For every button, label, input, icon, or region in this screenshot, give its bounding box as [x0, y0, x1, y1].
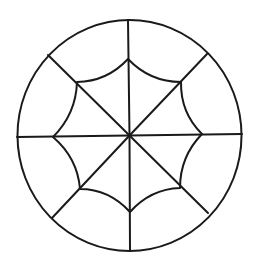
- center-point: [128, 134, 132, 138]
- web-diagram: [0, 0, 258, 265]
- spoke-bottom: [130, 136, 131, 252]
